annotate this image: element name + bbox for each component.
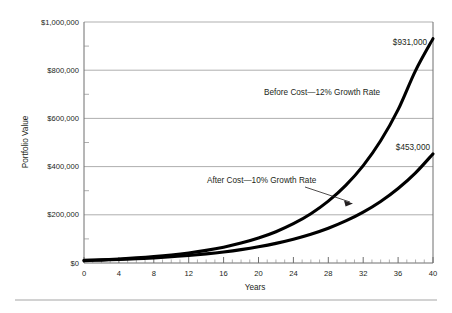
y-tick-label: $0 (71, 259, 79, 268)
end-label-before-cost: $931,000 (393, 38, 428, 47)
series-line-after-cost (84, 154, 433, 261)
x-tick-label: 28 (324, 269, 332, 278)
y-tick-label: $200,000 (47, 210, 79, 219)
end-label-after-cost: $453,000 (396, 143, 431, 152)
x-tick-label: 40 (429, 269, 437, 278)
x-tick-label: 16 (219, 269, 227, 278)
chart-figure: $1,000,000 $800,000 $600,000 $400,000 $2… (0, 0, 452, 313)
after-cost-leader-arrow (305, 187, 353, 206)
x-tick-label: 8 (152, 269, 156, 278)
y-tick-label: $400,000 (47, 162, 79, 171)
gridlines (84, 22, 433, 215)
y-tick-label: $1,000,000 (41, 18, 79, 27)
x-axis-title: Years (245, 283, 266, 292)
x-tick-label: 20 (254, 269, 262, 278)
x-tick-labels: 0481216202428323640 (82, 269, 437, 278)
y-tick-label: $600,000 (47, 114, 79, 123)
x-tick-label: 4 (117, 269, 121, 278)
y-minor-ticks (84, 46, 89, 239)
x-tick-label: 0 (82, 269, 86, 278)
portfolio-growth-chart: $1,000,000 $800,000 $600,000 $400,000 $2… (0, 0, 452, 313)
y-axis-title: Portfolio Value (21, 115, 30, 168)
x-tick-label: 12 (184, 269, 192, 278)
series-line-before-cost (84, 39, 433, 261)
y-tick-labels: $1,000,000 $800,000 $600,000 $400,000 $2… (41, 18, 79, 268)
x-tick-label: 32 (359, 269, 367, 278)
x-tick-label: 24 (289, 269, 297, 278)
x-tick-label: 36 (394, 269, 402, 278)
y-tick-label: $800,000 (47, 66, 79, 75)
annotation-after-cost: After Cost—10% Growth Rate (207, 176, 317, 185)
annotation-before-cost: Before Cost—12% Growth Rate (264, 88, 380, 97)
